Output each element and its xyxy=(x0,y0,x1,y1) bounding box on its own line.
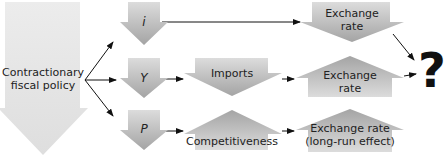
exchange-rate-label-middle: Exchange rate xyxy=(323,69,377,95)
exchange-rate-top-line2: rate xyxy=(325,20,379,33)
exchange-rate-middle-line1: Exchange xyxy=(323,69,377,82)
exchange-rate-label-top: Exchange rate xyxy=(325,7,379,33)
variable-Y-label: Y xyxy=(140,72,147,85)
source-label-line2: fiscal policy xyxy=(2,79,84,92)
exchange-rate-longrun-line1: Exchange rate xyxy=(305,122,395,135)
variable-i-label: i xyxy=(142,16,145,29)
exchange-rate-top-line1: Exchange xyxy=(325,7,379,20)
competitiveness-label: Competitiveness xyxy=(186,135,278,148)
source-label-line1: Contractionary xyxy=(2,66,84,79)
exchange-rate-middle-line2: rate xyxy=(323,82,377,95)
exchange-rate-longrun-line2: (long-run effect) xyxy=(305,135,395,148)
variable-P-label: P xyxy=(140,123,147,136)
exchange-rate-label-longrun: Exchange rate (long-run effect) xyxy=(305,122,395,148)
source-label: Contractionary fiscal policy xyxy=(2,66,84,92)
result-question-mark: ? xyxy=(418,46,446,94)
imports-label: Imports xyxy=(211,67,253,80)
